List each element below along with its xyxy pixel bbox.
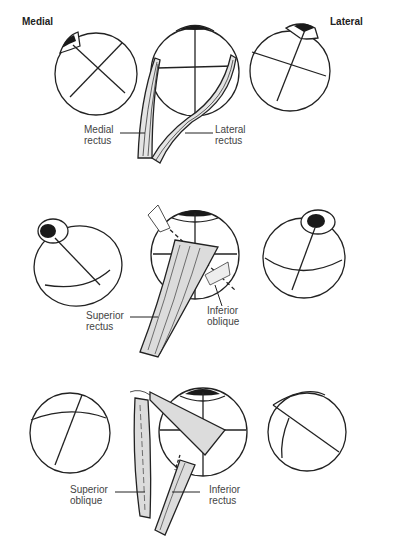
label-superior-oblique: Superior oblique	[70, 484, 108, 506]
eye-row3-right	[268, 392, 346, 471]
label-lateral-rectus: Lateral rectus	[215, 124, 246, 146]
eye-row3-left	[30, 393, 110, 473]
eye-row1-left	[55, 32, 137, 115]
lateral-heading: Lateral	[330, 16, 363, 27]
label-inferior-rectus: Inferior rectus	[209, 484, 240, 506]
eye-row2-left	[28, 219, 129, 313]
label-inferior-oblique: Inferior oblique	[207, 305, 239, 327]
label-medial-rectus: Medial rectus	[84, 124, 113, 146]
medial-heading: Medial	[22, 16, 53, 27]
inferior-rectus-muscle	[155, 455, 195, 535]
eye-row2-right	[263, 210, 345, 298]
superior-rectus-muscle	[140, 205, 218, 357]
lateral-rectus-muscle	[152, 55, 236, 163]
medial-rectus-muscle	[138, 58, 160, 158]
eye-row1-right	[250, 23, 330, 111]
eye-muscles-diagram	[0, 0, 399, 544]
label-superior-rectus: Superior rectus	[86, 310, 124, 332]
